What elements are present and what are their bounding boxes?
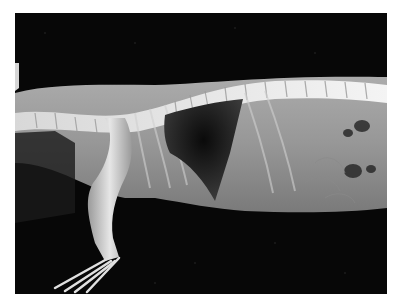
radiograph-image [15,13,387,294]
radiograph-drawing [15,13,387,294]
